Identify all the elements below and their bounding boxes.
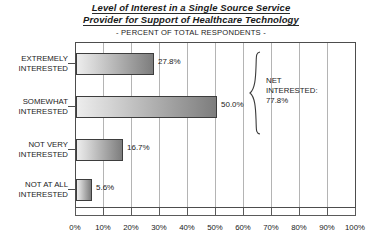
x-tick-50 [215, 208, 216, 216]
net-interested-annotation: NET INTERESTED: 77.8% [266, 76, 318, 105]
bar-value-not-very-interested: 16.7% [127, 143, 150, 153]
x-tick-40 [187, 208, 188, 216]
x-tick-20 [131, 208, 132, 216]
x-tick-0 [75, 208, 76, 216]
gridline-90 [327, 43, 328, 207]
bar-not-very-interested[interactable] [76, 139, 123, 161]
category-tick-not-at-all-interested [68, 189, 75, 190]
x-tick-90 [327, 208, 328, 216]
category-tick-somewhat-interested [68, 106, 75, 107]
x-tick-10 [103, 208, 104, 216]
x-tick-label-100: 100% [339, 223, 371, 233]
gridline-80 [299, 43, 300, 207]
category-tick-not-very-interested [68, 149, 75, 150]
category-line: INTERESTED [2, 190, 68, 200]
category-label-not-very-interested: NOT VERY INTERESTED [2, 140, 68, 159]
net-interested-brace-icon [249, 51, 262, 135]
category-line: NOT AT ALL [2, 180, 68, 190]
x-tick-30 [159, 208, 160, 216]
bar-somewhat-interested[interactable] [76, 96, 217, 118]
gridline-40 [187, 43, 188, 207]
bar-value-somewhat-interested: 50.0% [221, 100, 244, 110]
chart-title-line-1: Level of Interest in a Single Source Ser… [0, 2, 382, 14]
x-tick-100 [355, 208, 356, 216]
x-tick-80 [299, 208, 300, 216]
chart-subtitle: - PERCENT OF TOTAL RESPONDENTS - [0, 27, 382, 38]
bar-extremely-interested[interactable] [76, 53, 154, 75]
category-label-somewhat-interested: SOMEWHAT INTERESTED [2, 97, 68, 116]
category-line: EXTREMELY [2, 54, 68, 64]
gridline-50 [215, 43, 216, 207]
category-tick-extremely-interested [68, 63, 75, 64]
category-line: NOT VERY [2, 140, 68, 150]
gridline-70 [271, 43, 272, 207]
category-line: INTERESTED [2, 64, 68, 74]
gridline-30 [159, 43, 160, 207]
bar-value-extremely-interested: 27.8% [158, 57, 181, 67]
x-tick-70 [271, 208, 272, 216]
net-annotation-line: NET [266, 76, 318, 86]
category-line: INTERESTED [2, 150, 68, 160]
bar-not-at-all-interested[interactable] [76, 179, 92, 201]
category-label-not-at-all-interested: NOT AT ALL INTERESTED [2, 180, 68, 199]
x-tick-60 [243, 208, 244, 216]
net-annotation-line: 77.8% [266, 96, 318, 106]
plot-area [75, 42, 356, 208]
chart-title-line-2: Provider for Support of Healthcare Techn… [0, 14, 382, 26]
bar-value-not-at-all-interested: 5.6% [96, 183, 114, 193]
net-annotation-line: INTERESTED: [266, 86, 318, 96]
chart-title-block: Level of Interest in a Single Source Ser… [0, 2, 382, 38]
category-label-extremely-interested: EXTREMELY INTERESTED [2, 54, 68, 73]
gridline-60 [243, 43, 244, 207]
category-line: INTERESTED [2, 107, 68, 117]
category-line: SOMEWHAT [2, 97, 68, 107]
